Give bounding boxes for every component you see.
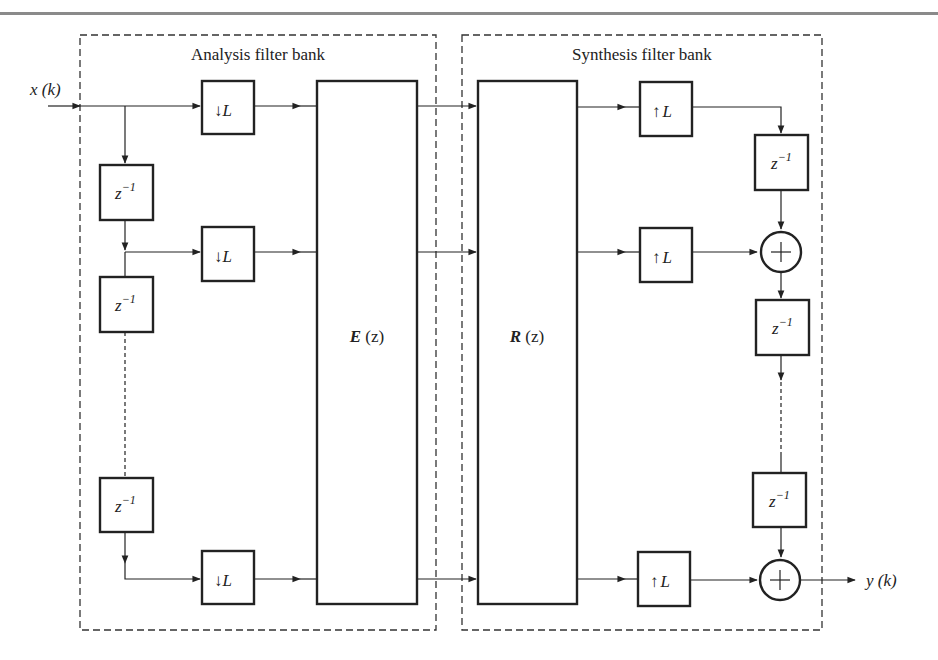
analysis-polyphase-matrix-E: E (z) xyxy=(317,81,417,604)
down-arrow-icon: ↓ xyxy=(214,571,223,590)
synthesis-delay-2: z−1 xyxy=(756,300,809,355)
svg-text:↑L: ↑L xyxy=(652,102,672,121)
svg-text:↓L: ↓L xyxy=(214,571,232,590)
down-arrow-icon: ↓ xyxy=(214,101,223,120)
svg-text:↑L: ↑L xyxy=(650,572,670,591)
downsampler-to-E-links xyxy=(254,106,317,579)
svg-text:↑L: ↑L xyxy=(652,248,672,267)
downsampler-last: ↓L xyxy=(202,551,254,604)
svg-text:E (z): E (z) xyxy=(349,327,384,346)
input-signal-label: x (k) xyxy=(29,80,61,99)
upsampler-last: ↑L xyxy=(638,552,690,606)
R-to-upsampler-links xyxy=(577,107,640,579)
synthesis-delay-1: z−1 xyxy=(755,135,808,190)
adder-output xyxy=(760,560,800,600)
downsampler-1: ↓L xyxy=(202,227,254,281)
down-arrow-icon: ↓ xyxy=(214,247,223,266)
output-signal-label: y (k) xyxy=(864,571,897,590)
filter-bank-diagram: Analysis filter bank Synthesis filter ba… xyxy=(0,0,938,660)
analysis-delay-1: z−1 xyxy=(100,165,153,220)
synthesis-title: Synthesis filter bank xyxy=(572,45,712,64)
analysis-delay-2: z−1 xyxy=(100,277,153,332)
upsampler-0: ↑L xyxy=(640,82,692,136)
svg-text:↓L: ↓L xyxy=(214,247,232,266)
svg-text:↓L: ↓L xyxy=(214,101,232,120)
up-arrow-icon: ↑ xyxy=(650,572,659,591)
analysis-title: Analysis filter bank xyxy=(191,45,326,64)
synthesis-delay-last: z−1 xyxy=(753,473,806,527)
up-arrow-icon: ↑ xyxy=(652,248,661,267)
synthesis-polyphase-matrix-R: R (z) xyxy=(478,81,577,604)
svg-text:R (z): R (z) xyxy=(509,327,544,346)
adder-1 xyxy=(761,232,801,272)
upsampler-1: ↑L xyxy=(640,228,692,282)
analysis-delay-last: z−1 xyxy=(100,478,153,532)
E-to-R-links xyxy=(417,106,476,579)
up-arrow-icon: ↑ xyxy=(652,102,661,121)
downsampler-0: ↓L xyxy=(202,81,254,134)
